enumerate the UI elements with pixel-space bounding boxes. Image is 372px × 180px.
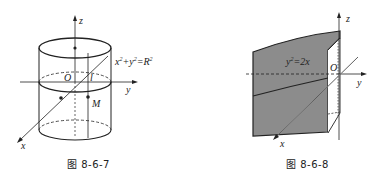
eq-term: =2x xyxy=(293,56,309,67)
parabolic-cylinder-diagram xyxy=(186,0,372,180)
line-l-label: l xyxy=(90,72,93,83)
figure-cylinder: z y x O l M x2+y2=R2 图 8-6-7 xyxy=(0,0,186,180)
point-m-label: M xyxy=(92,98,100,109)
x-axis-label: x xyxy=(21,140,25,151)
figure-parabolic-cylinder: z y x O y2=2x 图 8-6-8 xyxy=(186,0,372,180)
z-axis-label: z xyxy=(346,13,350,24)
z-axis-label: z xyxy=(79,15,83,26)
cylinder-equation: x2+y2=R2 xyxy=(115,56,153,67)
eq-exp: 2 xyxy=(150,56,153,62)
origin-label: O xyxy=(64,72,71,83)
figure-caption: 图 8-6-7 xyxy=(67,156,110,171)
x-axis-label: x xyxy=(280,138,284,149)
parabola-equation: y2=2x xyxy=(286,56,310,67)
y-axis-label: y xyxy=(357,77,361,88)
cylinder-diagram xyxy=(0,0,186,180)
y-axis-label: y xyxy=(126,84,130,95)
origin-label: O xyxy=(330,62,337,73)
figure-caption: 图 8-6-8 xyxy=(286,156,329,171)
